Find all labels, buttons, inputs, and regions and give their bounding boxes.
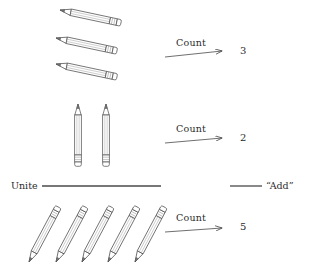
result-value-bottom: 5 [240,222,246,232]
count-arrow-middle [165,138,222,143]
count-arrow-top [165,51,222,57]
count-label-top: Count [176,38,206,48]
unite-label: Unite [11,181,38,191]
figure-drawing [0,0,311,276]
count-label-bottom: Count [176,213,206,223]
pencil-icon [59,7,121,26]
pencil-icon [103,104,110,166]
result-value-top: 3 [240,46,246,56]
pencil-icon [55,61,117,80]
pencil-group-bottom [26,205,167,263]
figure-canvas: Count 3 Count 2 Count 5 Unite “Add” [0,0,311,276]
result-value-middle: 2 [240,133,246,143]
pencil-icon [55,35,117,54]
pencil-icon [75,104,82,166]
pencil-icon [26,205,61,263]
count-label-middle: Count [176,124,206,134]
pencil-group-middle [75,104,110,166]
count-arrow-bottom [165,228,222,232]
pencil-group-top [55,7,121,80]
add-label: “Add” [266,181,294,191]
